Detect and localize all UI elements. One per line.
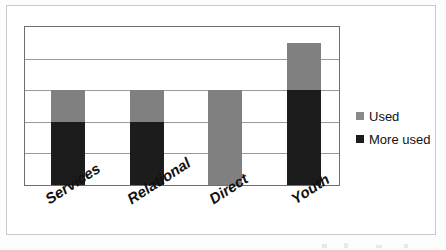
scan-artifact [322,244,327,248]
legend-item-more-used[interactable]: More used [356,132,446,146]
legend-label-more-used: More used [369,133,430,146]
scan-artifact [376,245,382,248]
bar-segment-used [130,90,164,122]
bar-youth[interactable] [287,43,321,185]
legend-swatch-more-used-icon [356,135,364,143]
bar-direct[interactable] [208,90,242,185]
chart-legend: Used More used [356,109,446,155]
page-background: ServicesRelationalDirectYouth Used More … [0,0,446,250]
bar-segment-used [51,90,85,122]
bar-segment-used [208,90,242,185]
legend-swatch-used-icon [356,112,364,120]
scan-artifact [344,243,348,248]
bar-segment-used [287,43,321,90]
legend-label-used: Used [369,110,399,123]
bar-segment-more-used [287,90,321,185]
x-axis-labels: ServicesRelationalDirectYouth [24,187,354,249]
scanned-figure-frame: ServicesRelationalDirectYouth Used More … [6,5,436,235]
legend-item-used[interactable]: Used [356,109,446,123]
scan-artifact [404,244,408,248]
